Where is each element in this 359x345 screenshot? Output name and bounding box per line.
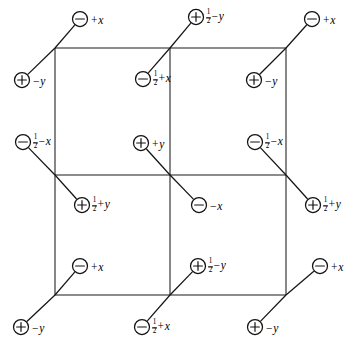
site-marker-site-mid-left-lower — [75, 198, 90, 213]
tie-line-site-bot-left-upper — [55, 272, 75, 295]
site-marker-site-center-lower — [192, 198, 207, 213]
site-marker-site-mid-right-lower — [306, 198, 321, 213]
site-marker-site-top-mid-lower — [136, 72, 151, 87]
tie-line-site-bot-right-lower — [261, 295, 286, 321]
tie-line-site-mid-left-lower — [55, 175, 77, 199]
site-marker-site-mid-right-upper — [248, 135, 263, 150]
site-marker-site-center-upper — [134, 136, 149, 151]
tie-line-site-top-right-upper — [286, 25, 307, 48]
tie-line-site-top-right-lower — [260, 48, 286, 74]
tie-line-site-top-left-lower — [28, 48, 55, 74]
tie-line-site-top-left-upper — [55, 25, 75, 48]
site-marker-site-bot-right-lower — [248, 320, 263, 335]
site-marker-site-top-mid-upper — [189, 10, 204, 25]
site-marker-site-mid-left-upper — [16, 135, 31, 150]
site-marker-site-bot-right-upper — [313, 259, 328, 274]
site-marker-site-bot-left-lower — [14, 320, 29, 335]
site-marker-site-bot-mid-lower — [135, 320, 150, 335]
diagram-canvas — [0, 0, 359, 345]
tie-line-site-mid-left-upper — [29, 148, 55, 175]
tie-line-site-center-lower — [170, 175, 193, 199]
symmetry-diagram: +x−y12−y12+x+x−y12−x12+y+y−x12−x12+y+x−y… — [0, 0, 359, 345]
tie-line-site-top-mid-lower — [148, 48, 170, 73]
site-marker-site-top-left-upper — [73, 12, 88, 27]
tie-line-site-bot-mid-upper — [170, 272, 192, 295]
site-marker-site-bot-left-upper — [73, 259, 88, 274]
tie-line-site-bot-left-lower — [27, 295, 55, 321]
tie-line-site-mid-right-upper — [261, 148, 286, 175]
tie-line-site-bot-right-upper — [286, 271, 314, 295]
site-marker-site-top-right-lower — [247, 73, 262, 88]
tie-line-site-top-mid-upper — [170, 23, 191, 48]
tie-line-site-bot-mid-lower — [147, 295, 170, 321]
site-marker-site-bot-mid-upper — [191, 259, 206, 274]
site-marker-site-top-right-upper — [305, 12, 320, 27]
tie-line-site-mid-right-lower — [286, 175, 308, 199]
site-marker-site-top-left-lower — [15, 73, 30, 88]
tie-line-site-center-upper — [146, 149, 170, 175]
